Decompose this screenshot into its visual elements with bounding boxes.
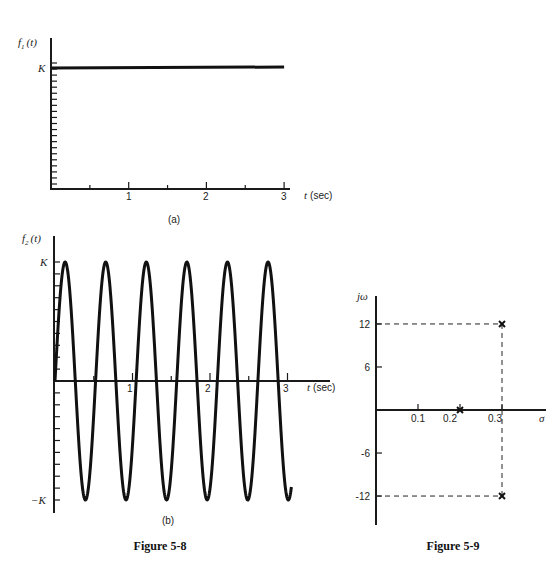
y-tick-label-neg6: -6 (361, 448, 370, 459)
y-axis-label: f2(t) (22, 232, 41, 247)
x-tick-label-3: 3 (283, 383, 289, 394)
y-tick-label-neg12: -12 (356, 491, 371, 502)
y-axis-label: f1(t) (18, 36, 37, 51)
y-tick-label-negK: −K (31, 494, 46, 506)
x-tick-label-0.2: 0.2 (443, 413, 457, 424)
chart-f2: f2(t) K −K 1 2 3 t(sec) (b) Figure 5-8 (22, 232, 335, 553)
y-tick-label-12: 12 (359, 319, 371, 330)
x-axis-label: t(sec) (307, 381, 335, 393)
x-axis-label: σ (539, 412, 545, 424)
y-tick-label-K: K (37, 62, 46, 74)
x-tick-label-2: 2 (203, 191, 209, 202)
panel-label-b: (b) (162, 515, 174, 526)
x-axis-label: t(sec) (304, 189, 332, 201)
x-tick-label-1: 1 (126, 191, 132, 202)
constant-line-K (51, 67, 284, 68)
chart-s-plane: jω 12 6 -6 -12 0.1 0.2 0.3 σ Figure 5-9 (355, 290, 546, 553)
x-tick-label-1: 1 (127, 383, 133, 394)
figure-caption-5-8: Figure 5-8 (134, 539, 187, 553)
y-tick-label-K: K (39, 256, 48, 268)
x-axis-ticks (90, 182, 284, 189)
panel-label-a: (a) (168, 214, 180, 225)
x-tick-label-2: 2 (205, 383, 211, 394)
x-tick-label-0.1: 0.1 (411, 413, 425, 424)
y-tick-label-6: 6 (364, 362, 370, 373)
figure-caption-5-9: Figure 5-9 (427, 539, 480, 553)
y-axis-label: jω (355, 290, 368, 302)
x-tick-label-0.3: 0.3 (488, 413, 502, 424)
figure-canvas: f1(t) K 1 2 3 t(sec) (a) f2(t) K −K 1 2 … (0, 0, 560, 576)
chart-f1: f1(t) K 1 2 3 t(sec) (a) (18, 36, 332, 225)
x-tick-label-3: 3 (281, 191, 287, 202)
